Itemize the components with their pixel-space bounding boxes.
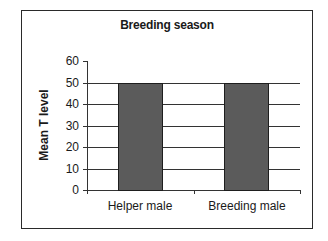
y-tick-label: 10 [57, 162, 79, 176]
bar-breeding-male [224, 83, 269, 191]
y-tick-label: 60 [57, 54, 79, 68]
x-tick [87, 190, 88, 194]
y-axis-title: Mean T level [37, 89, 51, 160]
x-tick-label: Helper male [108, 199, 173, 213]
y-tick-label: 0 [57, 183, 79, 197]
y-tick-label: 40 [57, 97, 79, 111]
y-tick-label: 30 [57, 119, 79, 133]
x-tick [194, 190, 195, 194]
bar-helper-male [118, 83, 163, 191]
y-axis [87, 61, 88, 191]
x-tick [300, 190, 301, 194]
y-tick-label: 50 [57, 76, 79, 90]
x-tick-label: Breeding male [208, 199, 285, 213]
chart-title: Breeding season [21, 18, 313, 32]
y-tick-label: 20 [57, 140, 79, 154]
